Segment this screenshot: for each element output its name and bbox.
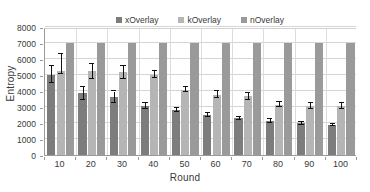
y-tick-mark xyxy=(40,44,43,45)
legend-label: nOverlay xyxy=(250,15,284,25)
error-bar-cap-lower xyxy=(174,111,179,112)
error-bar-cap-lower xyxy=(214,97,219,98)
x-tick-mark xyxy=(106,157,107,160)
x-tick-mark xyxy=(262,157,263,160)
bar-group xyxy=(170,29,201,155)
bar-xoverlay xyxy=(47,75,55,155)
bar-noverlay xyxy=(66,43,74,155)
y-tick-label: 2000 xyxy=(17,119,36,129)
legend-swatch-icon xyxy=(178,17,184,23)
error-bar-cap-lower xyxy=(276,106,281,107)
error-bar-cap-lower xyxy=(120,78,125,79)
x-tick-mark xyxy=(231,157,232,160)
error-bar-cap-upper xyxy=(89,63,94,64)
bar-group xyxy=(295,29,326,155)
error-bar-cap-lower xyxy=(111,102,116,103)
bar-group xyxy=(45,29,76,155)
error-bar-cap-upper xyxy=(80,86,85,87)
error-bar-cap-lower xyxy=(152,77,157,78)
bar-koverlay xyxy=(213,95,221,155)
legend-label: kOverlay xyxy=(187,15,221,25)
x-tick-mark xyxy=(356,157,357,160)
x-tick-label: 80 xyxy=(273,159,283,169)
error-bar-cap-lower xyxy=(183,91,188,92)
y-axis-ticks: 010002000300040005000600070008000 xyxy=(0,28,40,156)
error-bar-cap-lower xyxy=(58,73,63,74)
bar-group xyxy=(232,29,263,155)
bar-xoverlay xyxy=(78,93,86,155)
x-tick-mark xyxy=(169,157,170,160)
y-tick-label: 8000 xyxy=(17,23,36,33)
y-tick-mark xyxy=(40,140,43,141)
error-bar-cap-lower xyxy=(267,122,272,123)
x-axis-ticks: 102030405060708090100 xyxy=(44,157,356,171)
y-tick-label: 3000 xyxy=(17,103,36,113)
error-bar-cap-lower xyxy=(142,108,147,109)
error-bar-cap-lower xyxy=(298,124,303,125)
x-tick-label: 70 xyxy=(242,159,252,169)
x-tick-label: 100 xyxy=(333,159,348,169)
bar-group xyxy=(326,29,357,155)
bar-group xyxy=(201,29,232,155)
error-bar-line xyxy=(61,54,62,74)
error-bar-cap-lower xyxy=(245,99,250,100)
x-tick-mark xyxy=(200,157,201,160)
y-tick-mark xyxy=(40,76,43,77)
error-bar-cap-lower xyxy=(49,82,54,83)
error-bar-cap-upper xyxy=(267,118,272,119)
bar-xoverlay xyxy=(203,115,211,155)
bar-koverlay xyxy=(181,90,189,155)
x-tick-mark xyxy=(44,157,45,160)
bar-group xyxy=(107,29,138,155)
y-tick-mark xyxy=(40,60,43,61)
y-tick-label: 0 xyxy=(31,151,36,161)
bar-xoverlay xyxy=(141,106,149,155)
x-axis-title: Round xyxy=(0,172,370,183)
error-bar-line xyxy=(51,66,52,84)
y-tick-label: 5000 xyxy=(17,71,36,81)
x-tick-mark xyxy=(294,157,295,160)
error-bar-cap-lower xyxy=(205,116,210,117)
legend-item-koverlay[interactable]: kOverlay xyxy=(178,15,221,25)
bar-xoverlay xyxy=(110,97,118,155)
bar-koverlay xyxy=(119,72,127,155)
y-tick-label: 6000 xyxy=(17,55,36,65)
bar-xoverlay xyxy=(266,121,274,155)
bar-koverlay xyxy=(244,96,252,155)
x-tick-mark xyxy=(75,157,76,160)
bar-group xyxy=(263,29,294,155)
error-bar-line xyxy=(92,64,93,79)
bar-group xyxy=(139,29,170,155)
bar-noverlay xyxy=(222,43,230,155)
bar-xoverlay xyxy=(297,123,305,155)
legend-item-xoverlay[interactable]: xOverlay xyxy=(116,15,159,25)
error-bar-cap-upper xyxy=(339,102,344,103)
x-tick-label: 20 xyxy=(86,159,96,169)
bar-noverlay xyxy=(315,43,323,155)
bar-noverlay xyxy=(346,43,354,155)
error-bar-cap-lower xyxy=(89,78,94,79)
legend-item-noverlay[interactable]: nOverlay xyxy=(241,15,284,25)
error-bar-cap-lower xyxy=(236,119,241,120)
bar-noverlay xyxy=(159,43,167,155)
error-bar-cap-upper xyxy=(49,65,54,66)
error-bar-cap-upper xyxy=(183,86,188,87)
legend-label: xOverlay xyxy=(125,15,159,25)
x-tick-label: 30 xyxy=(117,159,127,169)
bar-koverlay xyxy=(306,106,314,155)
error-bar-cap-lower xyxy=(330,125,335,126)
error-bar-cap-upper xyxy=(214,90,219,91)
bar-noverlay xyxy=(97,43,105,155)
error-bar-cap-upper xyxy=(142,102,147,103)
error-bar-cap-upper xyxy=(245,92,250,93)
x-tick-mark xyxy=(138,157,139,160)
error-bar-cap-upper xyxy=(276,101,281,102)
bar-koverlay xyxy=(150,75,158,155)
error-bar-line xyxy=(83,87,84,100)
y-tick-mark xyxy=(40,92,43,93)
error-bar-cap-lower xyxy=(308,108,313,109)
error-bar-cap-lower xyxy=(80,99,85,100)
bar-noverlay xyxy=(128,43,136,155)
error-bar-cap-upper xyxy=(298,121,303,122)
bar-xoverlay xyxy=(172,110,180,155)
